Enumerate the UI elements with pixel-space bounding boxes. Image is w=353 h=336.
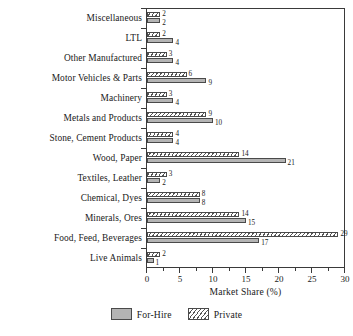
x-tick-minor	[163, 268, 164, 271]
x-tick-minor	[262, 268, 263, 271]
category-label: Motor Vehicles & Parts	[0, 73, 142, 83]
x-tick-major	[245, 268, 246, 273]
category-label: Other Manufactured	[0, 53, 142, 63]
bar-value-private: 2	[162, 30, 166, 37]
bar-value-private: 9	[208, 110, 212, 117]
bar-private	[147, 32, 160, 37]
bar-value-private: 14	[241, 210, 248, 217]
bar-private	[147, 152, 239, 157]
bar-value-private: 3	[169, 50, 173, 57]
x-tick-major	[344, 268, 345, 273]
x-tick-label: 5	[178, 274, 183, 285]
bar-value-for-hire: 4	[175, 99, 179, 106]
bar-value-private: 6	[189, 70, 193, 77]
x-tick-major	[212, 268, 213, 273]
bar-value-for-hire: 10	[215, 119, 222, 126]
legend-label-for-hire: For-Hire	[137, 309, 172, 320]
bar-for-hire	[147, 258, 154, 263]
bar-for-hire	[147, 98, 173, 103]
bar-value-for-hire: 21	[288, 159, 295, 166]
x-tick-major	[278, 268, 279, 273]
bar-value-private: 14	[241, 150, 248, 157]
bar-for-hire	[147, 238, 259, 243]
market-share-bar-chart: MiscellaneousLTLOther ManufacturedMotor …	[0, 0, 353, 336]
bar-for-hire	[147, 218, 246, 223]
bar-for-hire	[147, 158, 286, 163]
x-tick-minor	[196, 268, 197, 271]
x-tick-label: 15	[242, 274, 251, 285]
bar-value-private: 3	[169, 90, 173, 97]
bar-value-private: 2	[162, 250, 166, 257]
bar-value-private: 8	[202, 190, 206, 197]
category-label: Stone, Cement Products	[0, 133, 142, 143]
bar-private	[147, 72, 187, 77]
bar-value-for-hire: 4	[175, 139, 179, 146]
category-label: Wood, Paper	[0, 153, 142, 163]
x-tick-label: 20	[275, 274, 284, 285]
category-label: LTL	[0, 33, 142, 43]
category-axis-labels: MiscellaneousLTLOther ManufacturedMotor …	[0, 8, 142, 268]
legend-label-private: Private	[214, 309, 243, 320]
x-axis-title: Market Share (%)	[146, 286, 345, 297]
x-tick-label: 10	[209, 274, 218, 285]
bar-value-for-hire: 8	[202, 199, 206, 206]
bar-value-private: 29	[340, 230, 347, 237]
category-label: Minerals, Ores	[0, 213, 142, 223]
bar-value-for-hire: 2	[162, 179, 166, 186]
bar-for-hire	[147, 138, 173, 143]
bar-value-private: 3	[169, 170, 173, 177]
x-tick-minor	[295, 268, 296, 271]
bar-value-for-hire: 15	[248, 219, 255, 226]
x-tick-minor	[229, 268, 230, 271]
category-label: Machinery	[0, 93, 142, 103]
bar-for-hire	[147, 38, 173, 43]
bar-for-hire	[147, 58, 173, 63]
x-tick-minor	[328, 268, 329, 271]
bar-private	[147, 52, 167, 57]
bar-value-private: 2	[162, 10, 166, 17]
bar-for-hire	[147, 178, 160, 183]
category-label: Metals and Products	[0, 113, 142, 123]
category-label: Food, Feed, Beverages	[0, 233, 142, 243]
bar-private	[147, 172, 167, 177]
x-tick-label: 30	[341, 274, 350, 285]
bar-value-for-hire: 4	[175, 59, 179, 66]
legend-item-for-hire: For-Hire	[111, 308, 172, 320]
bar-private	[147, 232, 338, 237]
x-tick-label: 25	[308, 274, 317, 285]
x-axis-tick-labels: 051015202530	[146, 274, 345, 286]
bar-private	[147, 192, 200, 197]
bars-layer: 222434693491044142132881415291721	[147, 8, 345, 268]
bar-private	[147, 212, 239, 217]
category-label: Textiles, Leather	[0, 173, 142, 183]
bar-private	[147, 12, 160, 17]
legend-item-private: Private	[188, 308, 243, 320]
bar-value-for-hire: 17	[261, 239, 268, 246]
bar-value-for-hire: 2	[162, 19, 166, 26]
legend-swatch-for-hire	[111, 308, 132, 320]
x-tick-major	[311, 268, 312, 273]
bar-value-private: 4	[175, 130, 179, 137]
bar-value-for-hire: 9	[208, 79, 212, 86]
x-tick-label: 0	[145, 274, 150, 285]
category-label: Live Animals	[0, 253, 142, 263]
bar-for-hire	[147, 18, 160, 23]
legend-swatch-private	[188, 308, 209, 320]
bar-private	[147, 252, 160, 257]
bar-private	[147, 132, 173, 137]
bar-private	[147, 92, 167, 97]
x-tick-major	[179, 268, 180, 273]
bar-value-for-hire: 1	[156, 259, 160, 266]
bar-value-for-hire: 4	[175, 39, 179, 46]
bar-private	[147, 112, 206, 117]
category-label: Chemical, Dyes	[0, 193, 142, 203]
x-tick-major	[146, 268, 147, 273]
category-label: Miscellaneous	[0, 13, 142, 23]
chart-legend: For-Hire Private	[0, 308, 353, 320]
bar-for-hire	[147, 198, 200, 203]
bar-for-hire	[147, 118, 213, 123]
bar-for-hire	[147, 78, 206, 83]
